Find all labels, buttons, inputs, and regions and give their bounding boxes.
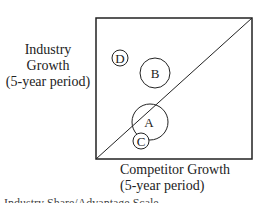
x-axis-label-line-1: Competitor Growth (120, 162, 250, 178)
circle-b-label: B (151, 66, 160, 81)
circle-d: D (112, 50, 128, 66)
circle-a-label: A (144, 115, 154, 130)
diagonal-line (96, 18, 252, 159)
x-axis-label-line-2: (5-year period) (120, 178, 250, 194)
circle-c-label: C (137, 134, 146, 149)
x-axis-label: Competitor Growth (5-year period) (120, 162, 250, 194)
circle-c: C (133, 133, 149, 149)
circle-b: B (140, 58, 170, 88)
circle-d-label: D (115, 51, 124, 66)
bottom-cutoff-caption: Industry Share/Advantage Scale (4, 196, 159, 203)
